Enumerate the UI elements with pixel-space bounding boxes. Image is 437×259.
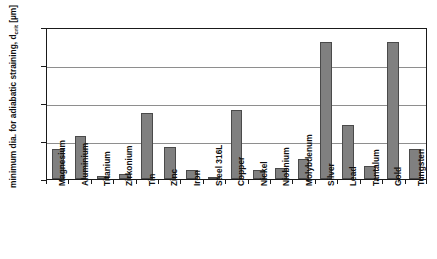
x-label-slot: Zirkonium	[113, 186, 135, 256]
x-tick-mark	[158, 180, 159, 184]
x-tick-mark	[225, 180, 226, 184]
x-label-slot: Iron	[180, 186, 202, 256]
x-tick-mark	[315, 180, 316, 184]
x-label-slot: Titanium	[91, 186, 113, 256]
x-tick-mark	[270, 180, 271, 184]
x-tick-mark	[180, 180, 181, 184]
bar-silver	[320, 42, 332, 179]
x-tick-label-tungsten: Tungsten	[416, 149, 426, 186]
x-tick-mark	[68, 180, 69, 184]
y-axis-title-text: minimum dia. for adiabatic straining, d	[8, 34, 18, 188]
x-tick-label-tin: Tin	[147, 174, 157, 186]
x-tick-label-gold: Gold	[393, 167, 403, 186]
bar-slot	[381, 29, 403, 179]
x-tick-mark	[113, 180, 114, 184]
x-tick-label-copper: Copper	[236, 157, 246, 186]
x-label-slot: Lead	[337, 186, 359, 256]
x-tick-label-zirkonium: Zirkonium	[124, 146, 134, 186]
x-tick-mark	[360, 180, 361, 184]
x-label-slot: Tin	[136, 186, 158, 256]
x-tick-label-tantalum: Tantalum	[371, 149, 381, 186]
x-label-slot: Niobnium	[270, 186, 292, 256]
x-tick-label-aluminium: Aluminium	[80, 143, 90, 186]
x-label-slot: Steel 316L	[203, 186, 225, 256]
bar-slot	[315, 29, 337, 179]
x-tick-mark	[136, 180, 137, 184]
x-tick-label-molybdenum: Molybdenum	[304, 134, 314, 186]
bar-slot	[337, 29, 359, 179]
x-tick-mark	[203, 180, 204, 184]
bar-gold	[387, 42, 399, 179]
x-label-slot: Tungsten	[405, 186, 427, 256]
x-tick-mark	[405, 180, 406, 184]
y-axis-title-subscript: crit	[13, 25, 19, 34]
x-label-slot: Magnesium	[46, 186, 68, 256]
x-label-slot: Nickel	[248, 186, 270, 256]
x-tick-label-steel-316l: Steel 316L	[214, 145, 224, 186]
bar-slot	[158, 29, 180, 179]
x-tick-mark	[292, 180, 293, 184]
x-tick-label-zinc: Zinc	[169, 169, 179, 186]
x-tick-mark	[46, 180, 47, 184]
x-tick-label-magnesium: Magnesium	[57, 140, 67, 186]
x-label-slot: Silver	[315, 186, 337, 256]
x-tick-label-lead: Lead	[348, 166, 358, 186]
bar-slot	[136, 29, 158, 179]
y-axis-title: minimum dia. for adiabatic straining, dc…	[8, 10, 22, 188]
x-axis-labels: MagnesiumAluminiumTitaniumZirkoniumTinZi…	[46, 186, 427, 256]
x-label-slot: Aluminium	[68, 186, 90, 256]
x-axis-tick-end	[426, 180, 427, 184]
x-label-slot: Copper	[225, 186, 247, 256]
x-tick-label-iron: Iron	[192, 170, 202, 186]
x-tick-mark	[91, 180, 92, 184]
x-tick-label-nickel: Nickel	[259, 161, 269, 186]
x-label-slot: Tantalum	[360, 186, 382, 256]
bar-slot	[248, 29, 270, 179]
bar-tin	[141, 113, 153, 179]
x-label-slot: Molybdenum	[292, 186, 314, 256]
x-tick-mark	[337, 180, 338, 184]
x-label-slot: Zinc	[158, 186, 180, 256]
x-tick-mark	[248, 180, 249, 184]
x-tick-mark	[382, 180, 383, 184]
x-tick-label-niobnium: Niobnium	[281, 147, 291, 186]
x-label-slot: Gold	[382, 186, 404, 256]
x-tick-label-silver: Silver	[326, 163, 336, 186]
bar-chart: minimum dia. for adiabatic straining, dc…	[0, 0, 437, 259]
bar-slot	[181, 29, 203, 179]
x-tick-label-titanium: Titanium	[102, 151, 112, 186]
y-axis-unit: [µm]	[8, 5, 18, 23]
